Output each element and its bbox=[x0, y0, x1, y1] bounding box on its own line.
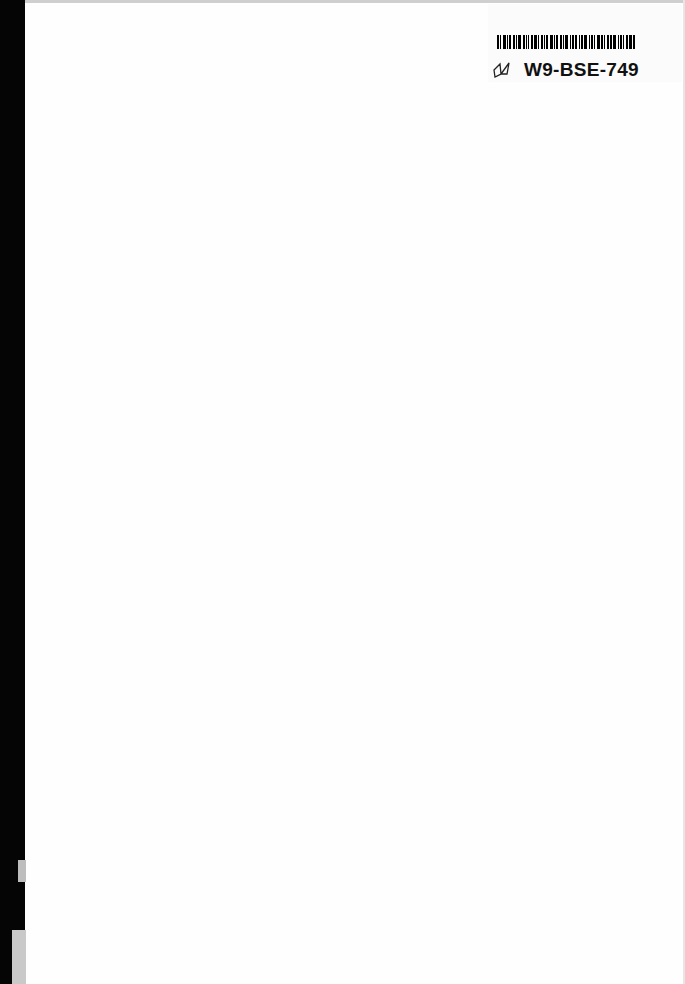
page-top-edge bbox=[25, 0, 685, 3]
spine-tear bbox=[12, 930, 26, 984]
barcode-code: W9-BSE-749 bbox=[524, 59, 639, 81]
book-icon bbox=[492, 61, 512, 79]
barcode-label-row: W9-BSE-749 bbox=[488, 57, 682, 83]
book-spine-shadow bbox=[0, 0, 25, 984]
spine-tear bbox=[18, 860, 26, 882]
blank-page bbox=[25, 0, 685, 984]
barcode bbox=[497, 35, 665, 49]
